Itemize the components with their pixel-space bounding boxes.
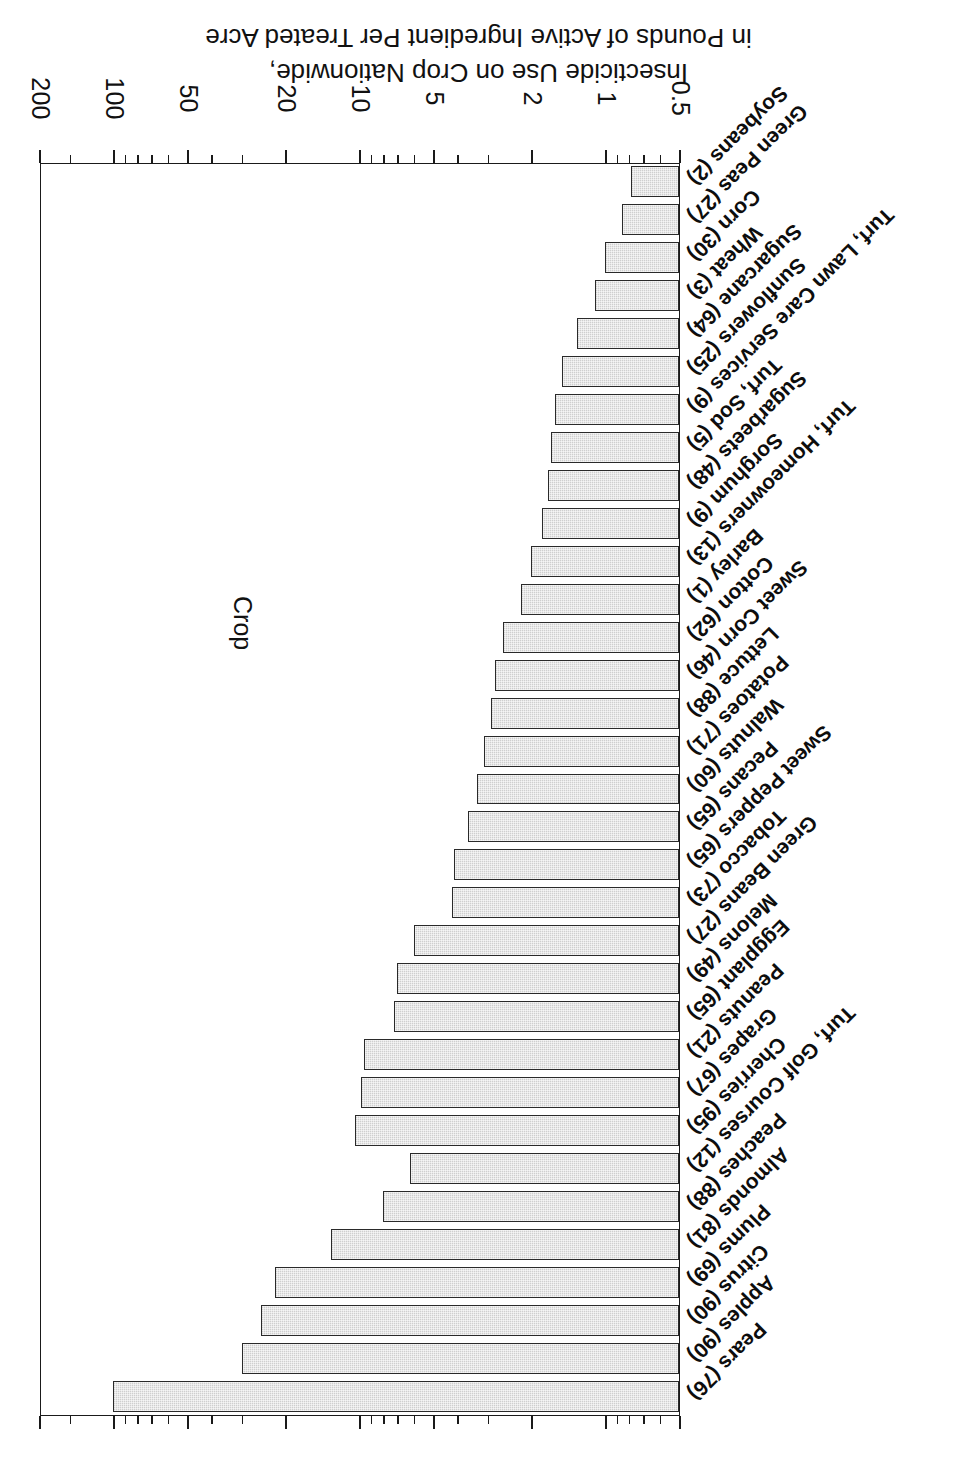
bar xyxy=(531,546,679,577)
bar-row xyxy=(41,238,679,276)
axis-tick xyxy=(605,1416,606,1429)
bar xyxy=(452,887,679,918)
axis-tick xyxy=(285,1416,286,1429)
axis-tick xyxy=(457,155,458,163)
bar xyxy=(542,508,679,539)
axis-tick xyxy=(643,1416,644,1424)
bar xyxy=(491,698,679,729)
axis-tick xyxy=(531,1416,532,1429)
axis-tick xyxy=(617,1416,618,1424)
axis-tick xyxy=(617,155,618,163)
bar xyxy=(555,394,679,425)
bar-row xyxy=(41,921,679,959)
axis-tick xyxy=(457,1416,458,1424)
bar-row xyxy=(41,1187,679,1225)
axis-tick xyxy=(679,150,680,163)
bar xyxy=(562,356,679,387)
axis-tick xyxy=(242,1416,243,1424)
bar-row xyxy=(41,276,679,314)
axis-tick xyxy=(187,1416,188,1429)
axis-tick xyxy=(359,150,360,163)
bar-row xyxy=(41,162,679,200)
bar-row xyxy=(41,997,679,1035)
bar xyxy=(622,204,679,235)
bar-chart-figure: 0.5125102050100200 Pears (76)Apples (90)… xyxy=(0,0,957,1476)
value-axis-title-line-2: in Pounds of Active Ingredient Per Treat… xyxy=(0,20,957,55)
axis-tick xyxy=(371,155,372,163)
bar-row xyxy=(41,1301,679,1339)
bar-row xyxy=(41,1111,679,1149)
axis-tick xyxy=(414,155,415,163)
axis-tick xyxy=(70,1416,71,1424)
bar-row xyxy=(41,808,679,846)
value-axis-title: Insecticide Use on Crop Nationwide, in P… xyxy=(0,20,957,90)
bar-row xyxy=(41,390,679,428)
axis-tick xyxy=(151,1416,152,1424)
bar-row xyxy=(41,580,679,618)
axis-tick xyxy=(488,1416,489,1424)
axis-tick xyxy=(137,155,138,163)
bar-row xyxy=(41,656,679,694)
axis-tick xyxy=(211,1416,212,1424)
axis-tick xyxy=(433,1416,434,1429)
bar-row xyxy=(41,1263,679,1301)
bar xyxy=(414,925,679,956)
bar xyxy=(551,432,679,463)
axis-tick xyxy=(168,155,169,163)
bar-row xyxy=(41,845,679,883)
bar xyxy=(410,1153,679,1184)
axis-tick xyxy=(629,155,630,163)
bar-row xyxy=(41,1225,679,1263)
bar xyxy=(468,812,679,843)
plot-area xyxy=(40,163,680,1416)
bar xyxy=(503,622,679,653)
bar xyxy=(394,1001,679,1032)
axis-tick xyxy=(285,150,286,163)
bar-row xyxy=(41,200,679,238)
axis-tick xyxy=(383,1416,384,1424)
axis-tick xyxy=(397,1416,398,1424)
figure-rotation-wrapper: 0.5125102050100200 Pears (76)Apples (90)… xyxy=(0,0,957,1476)
bar xyxy=(477,774,679,805)
bar xyxy=(577,318,679,349)
bar-row xyxy=(41,770,679,808)
axis-tick xyxy=(660,1416,661,1424)
bar xyxy=(383,1191,679,1222)
bar-row xyxy=(41,1035,679,1073)
axis-tick xyxy=(137,1416,138,1424)
bar-row xyxy=(41,504,679,542)
axis-tick xyxy=(383,155,384,163)
axis-tick xyxy=(629,1416,630,1424)
axis-tick xyxy=(643,155,644,163)
bar xyxy=(364,1039,679,1070)
axis-tick xyxy=(679,1416,680,1429)
bar xyxy=(605,242,679,273)
axis-tick xyxy=(414,1416,415,1424)
axis-tick xyxy=(531,150,532,163)
axis-tick xyxy=(113,150,114,163)
bar-row xyxy=(41,1073,679,1111)
bar-row xyxy=(41,1339,679,1377)
bar xyxy=(361,1077,679,1108)
value-axis-title-line-1: Insecticide Use on Crop Nationwide, xyxy=(0,55,957,90)
axis-tick xyxy=(187,150,188,163)
bar xyxy=(242,1343,679,1374)
bar-row xyxy=(41,959,679,997)
category-axis-title: Crop xyxy=(228,596,257,650)
bar xyxy=(632,166,680,197)
bar xyxy=(548,470,679,501)
bar xyxy=(397,963,679,994)
bar-row xyxy=(41,352,679,390)
axis-tick xyxy=(39,150,40,163)
bar xyxy=(355,1115,679,1146)
bar xyxy=(454,849,679,880)
axis-tick xyxy=(242,155,243,163)
bar-row xyxy=(41,694,679,732)
bar-row xyxy=(41,618,679,656)
bar xyxy=(261,1305,679,1336)
bar-row xyxy=(41,542,679,580)
bar-row xyxy=(41,883,679,921)
bar-row xyxy=(41,428,679,466)
axis-tick xyxy=(605,150,606,163)
axis-tick xyxy=(168,1416,169,1424)
